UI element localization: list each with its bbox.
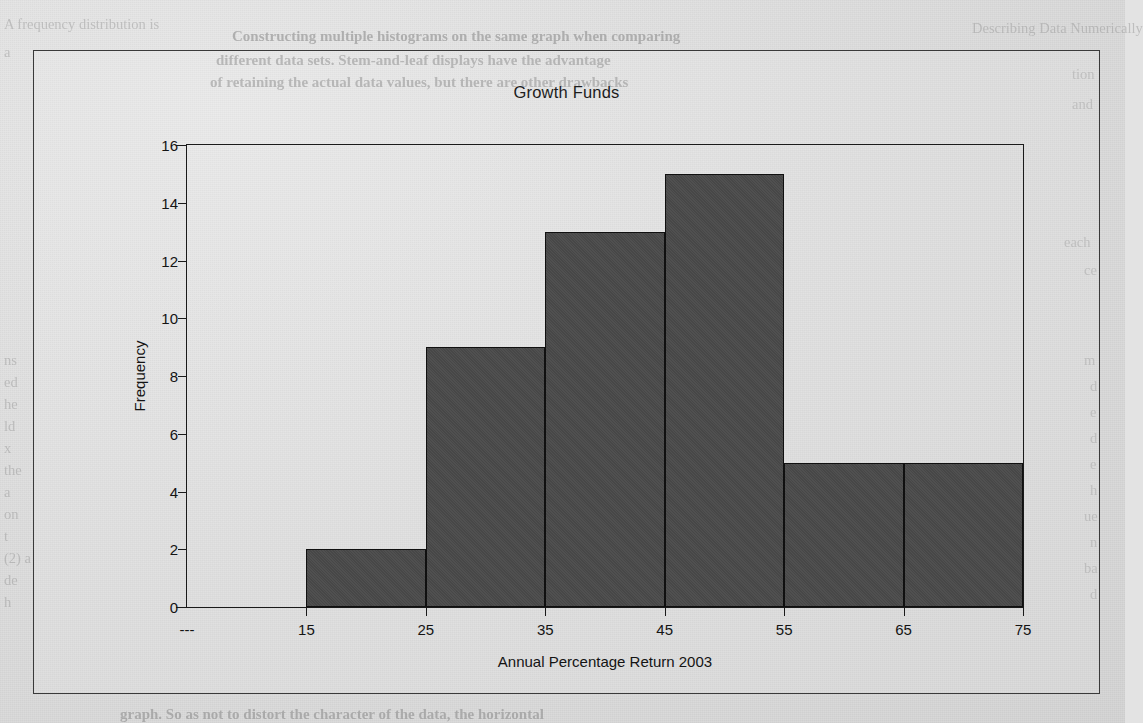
histogram-bar: [784, 463, 903, 607]
x-axis-tick-label: 35: [537, 621, 554, 638]
x-axis-tick: [665, 607, 666, 616]
y-axis-tick-label: 14: [161, 194, 178, 211]
y-axis-tick-label: 16: [161, 137, 178, 154]
y-axis-title: Frequency: [131, 341, 148, 412]
x-axis-tick: [904, 607, 905, 616]
x-axis-tick: [784, 607, 785, 616]
y-axis-tick-label: 10: [161, 310, 178, 327]
histogram-bar: [545, 232, 664, 607]
y-axis-tick-label: 12: [161, 252, 178, 269]
y-axis-tick-label: 4: [170, 483, 178, 500]
y-axis-tick: [178, 261, 187, 262]
x-axis-tick: [1023, 607, 1024, 616]
histogram-bar: [665, 174, 784, 607]
chart-title: Growth Funds: [34, 83, 1099, 102]
x-axis-tick-label: 15: [298, 621, 315, 638]
x-axis-tick: [306, 607, 307, 616]
x-axis-title: Annual Percentage Return 2003: [187, 653, 1023, 670]
figure-outer-border: Growth Funds Frequency 0246810121416 ---…: [33, 50, 1100, 694]
x-axis-tick-label: ---: [180, 621, 195, 638]
x-axis-tick-label: 75: [1015, 621, 1032, 638]
y-axis-tick-label: 8: [170, 368, 178, 385]
y-axis-tick: [178, 203, 187, 204]
x-axis-tick-label: 55: [776, 621, 793, 638]
y-axis-tick-label: 0: [170, 599, 178, 616]
y-axis-tick: [178, 318, 187, 319]
x-axis-tick-label: 45: [656, 621, 673, 638]
bar-series: [187, 145, 1023, 607]
y-axis-tick-label: 2: [170, 541, 178, 558]
x-axis-tick-label: 25: [418, 621, 435, 638]
y-axis-tick: [178, 434, 187, 435]
y-axis-tick: [178, 549, 187, 550]
y-axis-tick: [178, 492, 187, 493]
histogram-bar: [306, 549, 425, 607]
x-axis-tick: [426, 607, 427, 616]
histogram-bar: [904, 463, 1023, 607]
x-axis-tick-label: 65: [895, 621, 912, 638]
histogram-bar: [426, 347, 545, 607]
y-axis-tick-label: 6: [170, 425, 178, 442]
plot-area: Frequency 0246810121416 ---1525354555657…: [186, 144, 1024, 608]
y-axis-tick: [178, 376, 187, 377]
x-axis-tick: [545, 607, 546, 616]
